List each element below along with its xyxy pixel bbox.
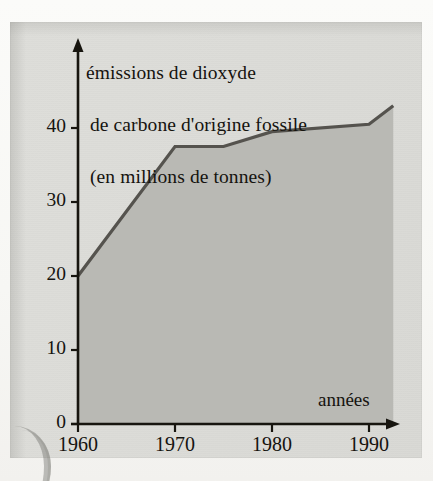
x-tick-label: 1970 (137, 433, 213, 456)
x-axis-label: années (318, 389, 370, 411)
y-tick-label: 0 (20, 411, 66, 433)
chart-title-line-1: émissions de dioxyde (86, 60, 386, 86)
y-tick-label: 40 (20, 115, 66, 137)
y-tick-label: 20 (20, 263, 66, 285)
chart-title-line-3: (en millions de tonnes) (90, 164, 386, 190)
figure-screenshot: émissions de dioxyde de carbone d'origin… (0, 0, 433, 481)
chart-title-line-2: de carbone d'origine fossile (90, 112, 386, 138)
x-tick-label: 1960 (40, 433, 116, 456)
y-tick-label: 30 (20, 189, 66, 211)
chart-title: émissions de dioxyde de carbone d'origin… (86, 34, 386, 216)
x-tick-label: 1980 (234, 433, 310, 456)
y-tick-label: 10 (20, 337, 66, 359)
x-tick-label: 1990 (331, 433, 407, 456)
